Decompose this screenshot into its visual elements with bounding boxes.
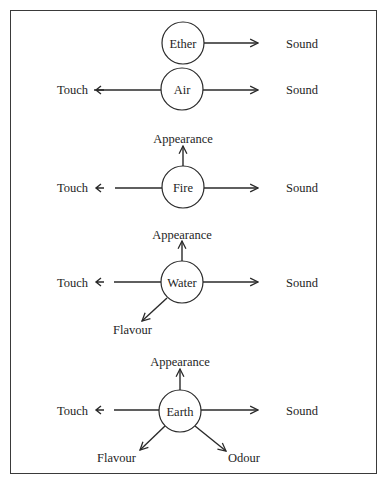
element-senses-diagram: Ether Sound Air Touch Sound Fire Appeara… [0, 0, 388, 485]
diagram-frame [10, 10, 377, 474]
